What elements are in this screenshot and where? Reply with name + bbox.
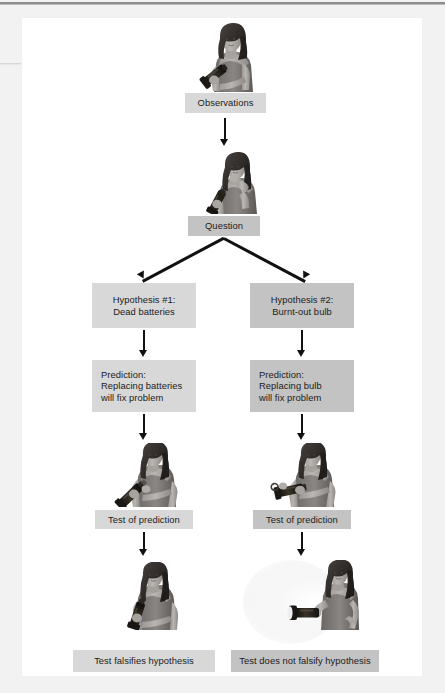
arrow-prediction-1-to-test-photo-1-head bbox=[139, 433, 147, 440]
box-prediction-2[interactable]: Prediction: Replacing bulb will fix prob… bbox=[250, 360, 354, 412]
arrow-hypothesis-2-to-prediction-2-head bbox=[297, 350, 305, 357]
photo-woman-replacing-batteries bbox=[112, 443, 180, 507]
arrow-observations-to-question-stem bbox=[224, 118, 227, 140]
box-test-of-prediction-1[interactable]: Test of prediction bbox=[95, 510, 193, 529]
arrow-observations-to-question-head bbox=[220, 139, 228, 146]
arrow-hypothesis-1-to-prediction-1-head bbox=[139, 350, 147, 357]
box-hypothesis-2[interactable]: Hypothesis #2: Burnt-out bulb bbox=[250, 283, 354, 328]
box-result-falsifies[interactable]: Test falsifies hypothesis bbox=[73, 650, 215, 672]
arrow-hypothesis-2-to-prediction-2-stem bbox=[301, 330, 304, 351]
box-test-of-prediction-2[interactable]: Test of prediction bbox=[253, 510, 351, 529]
photo-woman-holding-dark-flashlight bbox=[196, 20, 260, 92]
arrow-test-1-to-result-photo-1-stem bbox=[143, 532, 146, 550]
arrow-test-1-to-result-photo-1-head bbox=[139, 549, 147, 556]
arrow-test-2-to-result-photo-2-stem bbox=[301, 532, 304, 550]
box-prediction-1[interactable]: Prediction: Replacing batteries will fix… bbox=[92, 360, 196, 412]
photo-woman-flashlight-still-dark bbox=[124, 562, 186, 630]
arrow-question-to-hypothesis-1 bbox=[142, 237, 224, 282]
arrow-prediction-2-to-test-photo-2-head bbox=[297, 433, 305, 440]
photo-woman-flashlight-shining-beam bbox=[283, 560, 359, 630]
arrow-prediction-2-to-test-photo-2-stem bbox=[301, 414, 304, 434]
box-observations[interactable]: Observations bbox=[185, 93, 266, 113]
arrow-question-to-hypothesis-2 bbox=[223, 237, 305, 282]
photo-woman-puzzled-with-flashlight bbox=[196, 152, 262, 214]
box-question[interactable]: Question bbox=[188, 216, 260, 236]
flowchart-canvas: Observations bbox=[0, 0, 445, 693]
box-hypothesis-1[interactable]: Hypothesis #1: Dead batteries bbox=[92, 283, 196, 328]
photo-woman-replacing-bulb bbox=[270, 443, 338, 507]
box-result-not-falsified[interactable]: Test does not falsify hypothesis bbox=[231, 650, 379, 672]
arrow-prediction-1-to-test-photo-1-stem bbox=[143, 414, 146, 434]
arrow-test-2-to-result-photo-2-head bbox=[297, 549, 305, 556]
arrow-hypothesis-1-to-prediction-1-stem bbox=[143, 330, 146, 351]
